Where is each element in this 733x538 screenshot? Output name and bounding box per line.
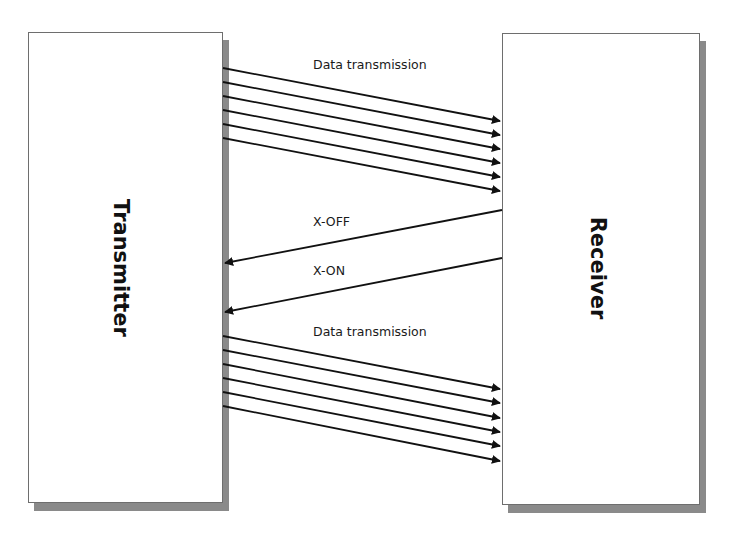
xoff-label: X-OFF [313, 214, 350, 229]
data-transmission-arrow [223, 378, 500, 432]
data-transmission-bottom-arrows [223, 336, 500, 461]
flow-control-diagram: Transmitter Receiver Data transmission X… [0, 0, 733, 538]
data-transmission-arrow [223, 350, 500, 403]
xon-label: X-ON [313, 263, 345, 278]
data-transmission-arrow [223, 68, 500, 121]
data-transmission-arrow [223, 124, 500, 177]
data-transmission-arrow [223, 82, 500, 135]
connector-lines [0, 0, 733, 538]
data-transmission-arrow [223, 364, 500, 418]
data-transmission-arrow [223, 406, 500, 461]
control-signal-arrows [225, 210, 502, 312]
xoff-arrow [225, 210, 502, 263]
data-transmission-arrow [223, 96, 500, 149]
data-transmission-arrow [223, 110, 500, 163]
data-transmission-top-arrows [223, 68, 500, 191]
data-transmission-arrow [223, 138, 500, 191]
data-transmission-arrow [223, 392, 500, 446]
data-transmission-top-label: Data transmission [313, 57, 427, 72]
xon-arrow [225, 258, 502, 312]
data-transmission-bottom-label: Data transmission [313, 324, 427, 339]
data-transmission-arrow [223, 336, 500, 389]
